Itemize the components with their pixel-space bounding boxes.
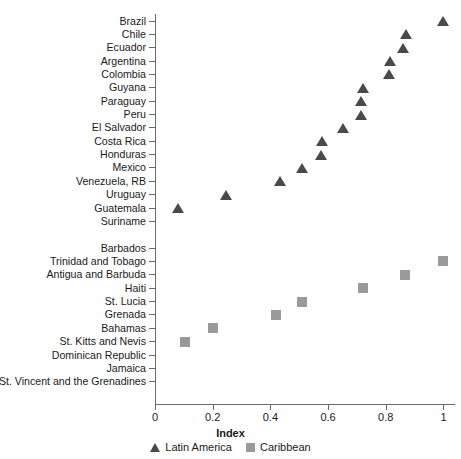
y-axis-row: St. Vincent and the Grenadines xyxy=(0,375,155,388)
y-axis-row: Guyana xyxy=(0,81,155,94)
y-axis-label: Mexico xyxy=(112,161,146,174)
y-axis-row: El Salvador xyxy=(0,121,155,134)
data-point-triangle xyxy=(400,29,412,39)
y-axis-row: Jamaica xyxy=(0,362,155,375)
data-point-triangle xyxy=(355,110,367,120)
y-axis-label: St. Kitts and Nevis xyxy=(59,335,146,348)
data-point-square xyxy=(297,297,307,307)
data-point-square xyxy=(438,256,448,266)
y-axis-label: Jamaica xyxy=(107,362,146,375)
legend-label: Caribbean xyxy=(260,441,311,453)
plot-area xyxy=(155,14,455,405)
legend-item[interactable]: Latin America xyxy=(150,441,232,453)
data-point-triangle xyxy=(437,16,449,26)
data-point-triangle xyxy=(316,136,328,146)
y-axis-label: Venezuela, RB xyxy=(76,175,146,188)
legend-item[interactable]: Caribbean xyxy=(246,441,311,453)
y-axis-label: Argentina xyxy=(101,55,146,68)
y-axis-label: St. Lucia xyxy=(105,295,146,308)
data-point-triangle xyxy=(172,203,184,213)
chart-legend: Latin AmericaCaribbean xyxy=(0,441,461,453)
y-axis-row: St. Lucia xyxy=(0,295,155,308)
y-axis-row: Argentina xyxy=(0,55,155,68)
y-axis-label: Barbados xyxy=(101,242,146,255)
y-axis-label: Grenada xyxy=(105,308,146,321)
y-axis-label: Guatemala xyxy=(94,202,146,215)
y-axis-label: Guyana xyxy=(109,81,146,94)
y-axis-label: El Salvador xyxy=(92,121,146,134)
y-axis-row: Chile xyxy=(0,28,155,41)
y-axis-row: Trinidad and Tobago xyxy=(0,255,155,268)
y-axis-row: Suriname xyxy=(0,215,155,228)
x-axis-tick-label: 0.8 xyxy=(378,411,393,423)
y-axis-label: Paraguay xyxy=(101,95,146,108)
data-point-triangle xyxy=(397,43,409,53)
y-axis-row: Ecuador xyxy=(0,41,155,54)
triangle-marker-icon xyxy=(150,443,160,452)
y-axis-label: Chile xyxy=(122,28,146,41)
y-axis-label: Honduras xyxy=(100,148,146,161)
y-axis-row: Brazil xyxy=(0,15,155,28)
y-axis-label: Haiti xyxy=(125,282,146,295)
x-axis-tick-label: 0.4 xyxy=(263,411,278,423)
data-point-square xyxy=(358,283,368,293)
y-axis-row: Grenada xyxy=(0,308,155,321)
y-axis-label: Suriname xyxy=(101,215,146,228)
data-point-square xyxy=(271,310,281,320)
y-axis-label: St. Vincent and the Grenadines xyxy=(0,375,146,388)
y-axis-label: Uruguay xyxy=(106,188,146,201)
y-axis-row: Antigua and Barbuda xyxy=(0,268,155,281)
y-axis-label: Peru xyxy=(124,108,146,121)
x-axis-tick-label: 0 xyxy=(152,411,158,423)
y-axis-label: Brazil xyxy=(120,15,147,28)
y-axis-row: Bahamas xyxy=(0,322,155,335)
data-point-square xyxy=(180,337,190,347)
square-marker-icon xyxy=(246,443,255,452)
y-axis-label: Antigua and Barbuda xyxy=(46,268,146,281)
data-point-triangle xyxy=(220,190,232,200)
data-point-triangle xyxy=(384,56,396,66)
y-axis-row: St. Kitts and Nevis xyxy=(0,335,155,348)
y-axis-row: Haiti xyxy=(0,282,155,295)
y-axis-label: Dominican Republic xyxy=(52,349,146,362)
x-axis-tick-label: 1 xyxy=(440,411,446,423)
y-axis-row: Venezuela, RB xyxy=(0,175,155,188)
data-point-triangle xyxy=(315,150,327,160)
x-axis-tick-label: 0.2 xyxy=(205,411,220,423)
data-point-triangle xyxy=(337,123,349,133)
data-point-triangle xyxy=(274,176,286,186)
y-axis-row: Colombia xyxy=(0,68,155,81)
data-point-triangle xyxy=(296,163,308,173)
y-axis-label: Trinidad and Tobago xyxy=(50,255,146,268)
y-axis-label: Costa Rica xyxy=(94,135,146,148)
y-axis-row: Mexico xyxy=(0,161,155,174)
x-axis-tick-label: 0.6 xyxy=(320,411,335,423)
data-point-triangle xyxy=(357,83,369,93)
y-axis-row: Uruguay xyxy=(0,188,155,201)
y-axis-row: Honduras xyxy=(0,148,155,161)
y-axis-row: Costa Rica xyxy=(0,135,155,148)
x-axis-title: Index xyxy=(0,427,461,439)
data-point-square xyxy=(400,270,410,280)
y-axis-row: Paraguay xyxy=(0,95,155,108)
y-axis-label: Ecuador xyxy=(107,41,146,54)
y-axis-label: Colombia xyxy=(101,68,146,81)
legend-label: Latin America xyxy=(165,441,232,453)
y-axis-row: Dominican Republic xyxy=(0,349,155,362)
y-axis-row: Peru xyxy=(0,108,155,121)
scatter-chart: BrazilChileEcuadorArgentinaColombiaGuyan… xyxy=(0,0,461,459)
data-point-square xyxy=(208,323,218,333)
y-axis-row: Guatemala xyxy=(0,202,155,215)
y-axis-label: Bahamas xyxy=(101,322,146,335)
data-point-triangle xyxy=(355,96,367,106)
y-axis-row: Barbados xyxy=(0,242,155,255)
data-point-triangle xyxy=(383,69,395,79)
